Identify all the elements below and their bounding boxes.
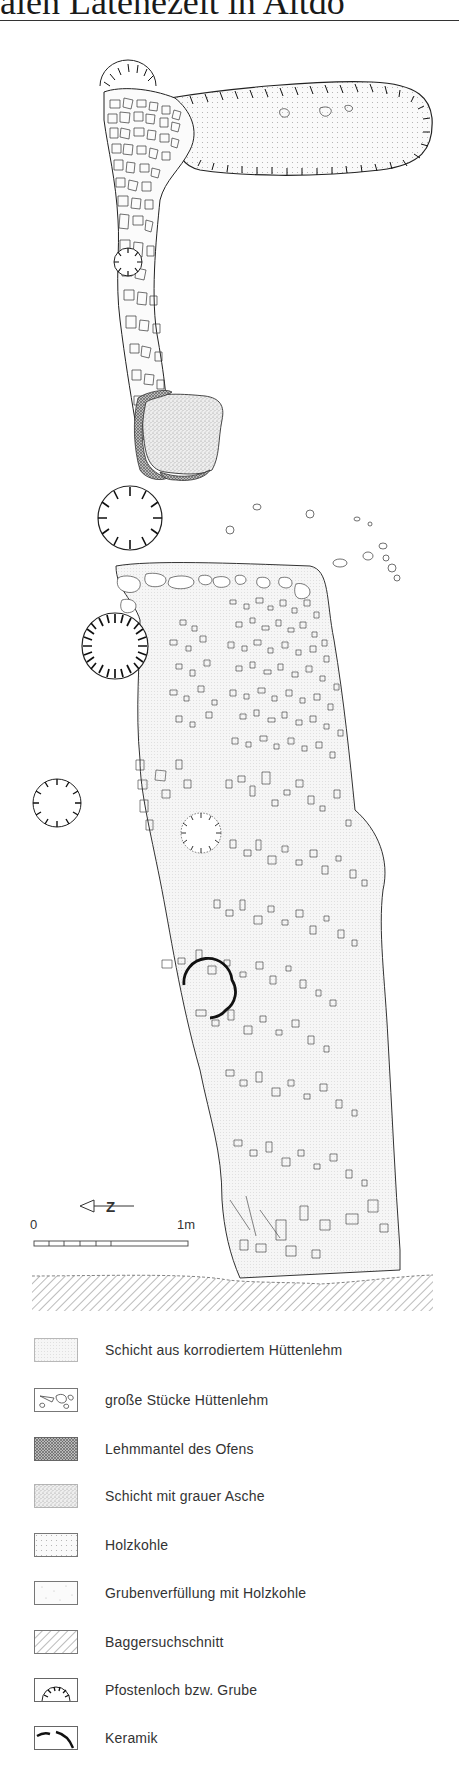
legend-label: Grubenverfüllung mit Holzkohle: [105, 1583, 306, 1603]
outlined-pieces-swatch-icon: [34, 1388, 78, 1412]
posthole-inner: [181, 813, 221, 853]
legend-item-asche-layer: Schicht mit grauer Asche: [0, 1484, 459, 1510]
legend-item-huettenlehm-pieces: große Stücke Hüttenlehm: [0, 1388, 459, 1414]
posthole-large-1: [98, 486, 162, 550]
posthole-swatch-icon: [34, 1678, 78, 1702]
baggersuchschnitt-band: [32, 1275, 433, 1311]
scale-bar: [34, 1241, 188, 1246]
posthole-top-left: [100, 60, 156, 86]
legend-label: Schicht mit grauer Asche: [105, 1486, 265, 1506]
very-sparse-dot-swatch-icon: [34, 1581, 78, 1605]
legend-item-baggersuchschnitt: Baggersuchschnitt: [0, 1630, 459, 1656]
keramik-arc-swatch-icon: [34, 1726, 78, 1750]
legend-label: Schicht aus korrodiertem Hüttenlehm: [105, 1340, 342, 1360]
diagonal-hatch-swatch-icon: [34, 1630, 78, 1654]
north-arrow-label: Z: [106, 1198, 115, 1215]
legend-item-huettenlehm-layer: Schicht aus korrodiertem Hüttenlehm: [0, 1338, 459, 1364]
legend-label: Lehmmantel des Ofens: [105, 1439, 254, 1459]
sparse-dot-swatch-icon: [34, 1533, 78, 1557]
posthole-large-2: [82, 613, 148, 679]
legend-label: Baggersuchschnitt: [105, 1632, 224, 1652]
legend-label: Keramik: [105, 1728, 158, 1748]
stipple-swatch-icon: [34, 1484, 78, 1508]
excavation-plan: Z: [0, 0, 459, 1320]
upper-pit: [170, 82, 432, 176]
legend-item-pfostenloch: Pfostenloch bzw. Grube: [0, 1678, 459, 1704]
legend-item-grubenverfuellung: Grubenverfüllung mit Holzkohle: [0, 1581, 459, 1607]
oven-area: [134, 390, 222, 480]
posthole-isolated-left: [33, 779, 81, 827]
scale-start-label: 0: [30, 1217, 37, 1232]
legend-item-ofen-lehmmantel: Lehmmantel des Ofens: [0, 1437, 459, 1463]
legend-item-keramik: Keramik: [0, 1726, 459, 1752]
posthole-small-upper: [114, 248, 142, 276]
crosshatch-swatch-icon: [34, 1437, 78, 1461]
fine-dot-swatch-icon: [34, 1338, 78, 1362]
legend-label: Pfostenloch bzw. Grube: [105, 1680, 257, 1700]
main-pit: [116, 563, 400, 1278]
scale-end-label: 1m: [177, 1217, 195, 1232]
legend-label: Holzkohle: [105, 1535, 168, 1555]
legend-label: große Stücke Hüttenlehm: [105, 1390, 268, 1410]
legend-item-holzkohle: Holzkohle: [0, 1533, 459, 1559]
